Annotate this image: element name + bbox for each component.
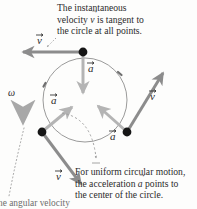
caption-cut-off: he angular velocity <box>0 198 70 209</box>
caption-bottom-a-letter: a <box>138 178 143 189</box>
caption-bottom-a-arrow: → <box>138 172 143 177</box>
point-top <box>79 48 88 57</box>
caption-top-line3: the circle at all points. <box>57 25 144 37</box>
caption-top-line1: The instantaneous <box>57 2 144 14</box>
label-omega: ω <box>8 87 15 98</box>
dashed-interior-arc <box>62 113 96 158</box>
point-lower-right <box>123 128 132 137</box>
caption-bottom-line2-post: points to <box>143 178 179 189</box>
caption-bottom-a-symbol: a→ <box>138 178 143 190</box>
acceleration-vector-right <box>98 106 126 131</box>
caption-top-line2: velocity v→ is tangent to <box>57 14 144 26</box>
caption-bottom-line2: the acceleration a→ points to <box>75 178 185 190</box>
caption-bottom-line1: For uniform circular motion, <box>75 166 185 178</box>
omega-leader-dotted <box>9 128 24 196</box>
point-lower-left <box>38 128 47 137</box>
caption-top-v-symbol: v→ <box>90 14 94 26</box>
caption-top-v-arrow: → <box>90 8 94 13</box>
caption-bottom-line2-pre: the acceleration <box>75 178 138 189</box>
caption-top-line2-pre: velocity <box>57 14 90 25</box>
caption-bottom: For uniform circular motion, the acceler… <box>75 166 185 201</box>
caption-top-line2-post: is tangent to <box>95 14 144 25</box>
velocity-vector-right <box>127 73 163 132</box>
top-caption-leader-dotted <box>47 38 56 47</box>
caption-top: The instantaneous velocity v→ is tangent… <box>57 2 144 37</box>
caption-bottom-line3: the center of the circle. <box>75 189 185 201</box>
caption-top-v-letter: v <box>90 14 94 25</box>
